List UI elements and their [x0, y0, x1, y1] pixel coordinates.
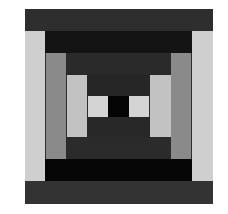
inner-top-band	[87, 75, 150, 96]
ring3-bottom-band	[66, 137, 171, 159]
ring3-right-strip	[150, 75, 171, 137]
ring3-left-strip	[67, 75, 87, 137]
ring2-right-strip	[171, 53, 191, 159]
inner-bottom-band	[87, 117, 150, 137]
ring2-top-band	[45, 31, 192, 53]
center-square	[108, 96, 129, 117]
center-right-square	[129, 96, 149, 117]
outer-bottom-band	[25, 181, 213, 204]
ring2-bottom-band	[45, 159, 192, 181]
outer-left-strip	[25, 31, 45, 181]
ring3-top-band	[66, 53, 171, 75]
outer-top-band	[25, 9, 213, 31]
center-left-square	[88, 96, 108, 117]
ring2-left-strip	[46, 53, 66, 159]
outer-right-strip	[192, 31, 213, 181]
quilt-block	[25, 9, 213, 204]
